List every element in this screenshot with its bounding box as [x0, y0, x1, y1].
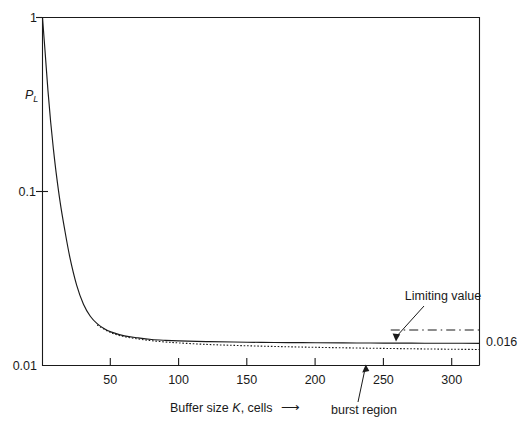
- xtick-label-50: 50: [103, 373, 117, 387]
- ytick-label-1: 1: [30, 11, 37, 25]
- xtick-label-300: 300: [441, 373, 462, 387]
- ytick-label-0-1: 0.1: [19, 185, 36, 199]
- curve-burst-approximation: [97, 325, 479, 350]
- burst-region-label: burst region: [331, 403, 397, 417]
- y-axis-title-sub: L: [33, 94, 38, 104]
- chart-figure: 1 0.1 0.01 PL 50 100 150 200 250 300 Lim…: [0, 0, 531, 430]
- xtick-label-250: 250: [373, 373, 394, 387]
- chart-svg: 1 0.1 0.01 PL 50 100 150 200 250 300 Lim…: [0, 0, 531, 430]
- x-axis-title-arrow: ⟶: [281, 401, 300, 415]
- x-axis-title-suffix: , cells: [241, 401, 273, 415]
- plot-frame: [43, 18, 480, 366]
- x-axis-title-prefix: Buffer size: [170, 401, 232, 415]
- burst-region-leader: [358, 369, 365, 402]
- ytick-label-0-01: 0.01: [13, 359, 37, 373]
- xtick-label-100: 100: [168, 373, 189, 387]
- x-axis-title: Buffer size K, cells⟶: [170, 401, 300, 415]
- y-axis-title: PL: [25, 88, 38, 104]
- limiting-value-leader: [396, 306, 424, 337]
- xtick-label-200: 200: [305, 373, 326, 387]
- xtick-label-150: 150: [236, 373, 257, 387]
- axis-lines: [43, 17, 480, 366]
- limiting-value-label: Limiting value: [405, 289, 481, 303]
- limiting-value-arrowhead: [393, 334, 401, 342]
- limiting-value-number: 0.016: [486, 335, 517, 349]
